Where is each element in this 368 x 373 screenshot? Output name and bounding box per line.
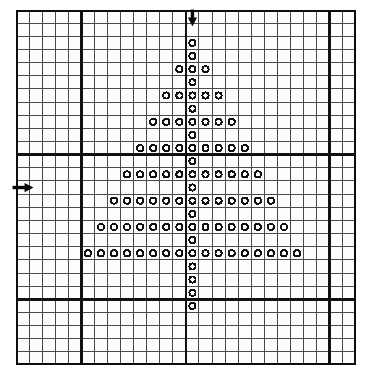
data-point-marker [242,198,248,204]
data-point-marker [268,250,274,256]
data-point-marker [202,224,208,230]
data-point-marker [229,198,235,204]
data-point-marker [189,211,195,217]
data-point-marker [215,224,221,230]
grid-paper [16,10,356,365]
data-point-marker [189,303,195,309]
data-point-marker [215,198,221,204]
data-point-marker [163,198,169,204]
data-point-marker [176,250,182,256]
data-point-marker [268,224,274,230]
data-point-marker [163,171,169,177]
data-point-marker [189,132,195,138]
data-point-marker [189,92,195,98]
data-point-marker [202,66,208,72]
data-point-marker [229,250,235,256]
data-point-marker [137,171,143,177]
data-point-marker [85,250,91,256]
data-point-marker [189,106,195,112]
data-point-marker [111,224,117,230]
data-point-marker [215,92,221,98]
data-point-marker [189,276,195,282]
data-point-marker [202,198,208,204]
data-point-marker [189,290,195,296]
data-point-marker [229,119,235,125]
data-point-marker [163,119,169,125]
data-point-marker [281,224,287,230]
data-point-marker [255,224,261,230]
data-point-marker [137,224,143,230]
data-point-marker [98,250,104,256]
data-point-marker [150,119,156,125]
data-point-marker [163,145,169,151]
data-point-marker [163,92,169,98]
data-point-marker [189,263,195,269]
data-point-marker [189,145,195,151]
data-point-marker [281,250,287,256]
data-point-marker [137,250,143,256]
data-point-marker [150,198,156,204]
data-point-marker [202,171,208,177]
data-point-marker [189,237,195,243]
data-point-marker [255,250,261,256]
data-point-marker [176,171,182,177]
data-point-marker [189,224,195,230]
data-point-marker [124,198,130,204]
data-point-marker [215,250,221,256]
data-point-marker [124,171,130,177]
data-point-marker [255,171,261,177]
data-point-marker [189,171,195,177]
data-point-marker [124,224,130,230]
data-point-marker [189,40,195,46]
data-point-marker [176,145,182,151]
data-point-marker [150,224,156,230]
data-point-marker [137,198,143,204]
data-point-marker [189,119,195,125]
data-point-marker [150,171,156,177]
data-point-marker [98,224,104,230]
data-point-marker [137,145,143,151]
data-point-marker [163,224,169,230]
grid-svg [16,10,356,365]
data-point-marker [294,250,300,256]
data-point-marker [229,224,235,230]
data-point-marker [111,198,117,204]
data-point-marker [189,66,195,72]
data-point-marker [202,145,208,151]
data-point-marker [176,119,182,125]
data-point-marker [255,198,261,204]
data-point-marker [215,145,221,151]
data-point-marker [150,145,156,151]
data-point-marker [124,250,130,256]
data-point-marker [229,145,235,151]
data-point-marker [189,250,195,256]
data-point-marker [189,158,195,164]
data-point-marker [111,250,117,256]
data-point-marker [202,250,208,256]
data-point-marker [176,92,182,98]
data-point-marker [268,198,274,204]
data-point-marker [176,66,182,72]
data-point-marker [189,53,195,59]
data-point-marker [189,198,195,204]
data-point-marker [176,224,182,230]
data-point-marker [242,145,248,151]
data-point-marker [242,171,248,177]
data-point-marker [202,92,208,98]
figure-canvas [0,0,368,373]
data-point-marker [229,171,235,177]
data-point-marker [215,171,221,177]
data-point-marker [176,198,182,204]
data-point-marker [163,250,169,256]
data-point-marker [242,224,248,230]
data-point-marker [189,184,195,190]
data-point-marker [150,250,156,256]
data-point-marker [242,250,248,256]
data-point-marker [202,119,208,125]
data-point-marker [215,119,221,125]
data-point-marker [189,79,195,85]
